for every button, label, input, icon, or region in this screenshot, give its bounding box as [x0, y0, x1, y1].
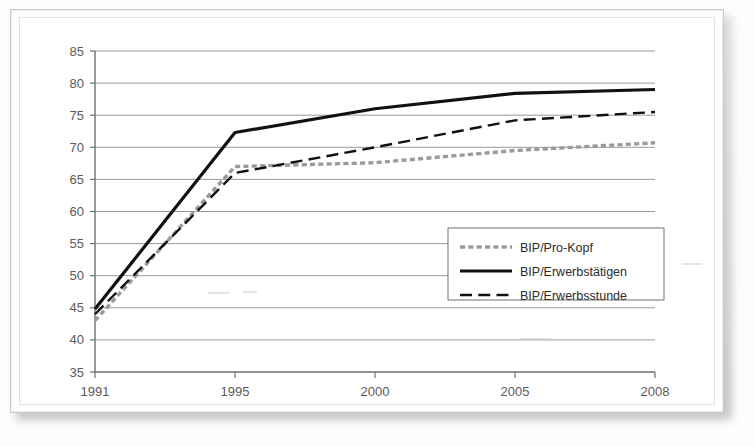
y-axis-tick-label: 55	[70, 236, 84, 251]
y-axis-tick-label: 70	[70, 140, 84, 155]
x-axis-tick-labels: 19911995200020052008	[81, 384, 670, 399]
legend-label-1: BIP/Erwerbstätigen	[520, 265, 627, 279]
line-chart: 3540455055606570758085 19911995200020052…	[0, 0, 755, 446]
y-axis-tick-label: 50	[70, 268, 84, 283]
y-axis-tick-label: 35	[70, 365, 84, 380]
y-axis-tick-label: 60	[70, 204, 84, 219]
y-axis-tick-labels: 3540455055606570758085	[70, 44, 84, 380]
x-axis-tick-label: 2000	[361, 384, 390, 399]
x-axis-tick-label: 1995	[221, 384, 250, 399]
x-axis-tick-label: 2008	[641, 384, 670, 399]
chart-legend: BIP/Pro-KopfBIP/ErwerbstätigenBIP/Erwerb…	[448, 228, 664, 303]
y-axis-tick-label: 65	[70, 172, 84, 187]
x-axis-tick-label: 2005	[501, 384, 530, 399]
y-axis-tick-label: 85	[70, 44, 84, 59]
legend-label-0: BIP/Pro-Kopf	[520, 241, 593, 255]
y-axis-tick-label: 75	[70, 108, 84, 123]
x-axis-tick-label: 1991	[81, 384, 110, 399]
scanned-page: 3540455055606570758085 19911995200020052…	[0, 0, 755, 446]
y-axis-tick-label: 45	[70, 300, 84, 315]
y-axis-tick-label: 80	[70, 76, 84, 91]
y-axis-tick-label: 40	[70, 332, 84, 347]
x-axis-ticks	[95, 372, 655, 378]
legend-label-2: BIP/Erwerbsstunde	[520, 289, 627, 303]
y-axis-ticks	[90, 51, 95, 372]
chart-svg: 3540455055606570758085 19911995200020052…	[0, 0, 755, 446]
